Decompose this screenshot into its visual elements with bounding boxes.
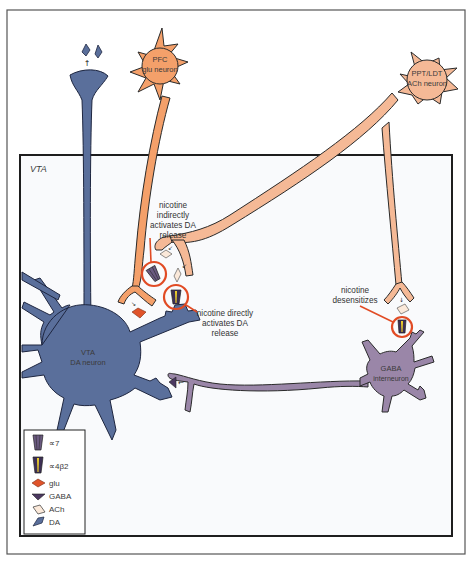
alpha7-receptor-icon	[33, 435, 43, 450]
legend-label-glu: glu	[49, 479, 60, 488]
svg-text:nicotine: nicotine	[341, 286, 370, 295]
vta-nicotine-diagram: VTA PPT/LDT ACh neuron VTA DA neuron ↑	[0, 0, 470, 563]
vta-neuron-label-line2: DA neuron	[70, 358, 105, 367]
annotation-line-indirect	[150, 238, 151, 262]
legend-label-da: DA	[49, 518, 61, 527]
gaba-neuron-label-line2: interneuron	[373, 375, 409, 382]
pfc-neuron-label-line1: PFC	[153, 55, 169, 64]
down-left-arrow-icon: ↙	[182, 262, 187, 269]
down-arrow-icon: ↓	[399, 296, 404, 303]
alpha4beta2-receptor-icon	[33, 457, 43, 473]
svg-text:release: release	[160, 231, 187, 240]
legend-label-ach: ACh	[49, 505, 65, 514]
svg-text:indirectly: indirectly	[157, 211, 190, 220]
down-left-arrow-icon: ↙	[168, 244, 173, 251]
legend: ∝7 ∝4β2 glu GABA ACh DA	[24, 430, 85, 534]
down-arrow-icon: ↘	[131, 300, 136, 307]
legend-label-alpha4beta2: ∝4β2	[49, 462, 69, 471]
up-arrow-icon: ↑	[84, 59, 91, 68]
svg-text:release: release	[212, 329, 239, 338]
vta-region-label: VTA	[30, 164, 47, 174]
left-arrow-icon: ←	[178, 379, 184, 387]
vta-neuron-label-line1: VTA	[81, 348, 95, 357]
svg-text:nicotine: nicotine	[159, 201, 188, 210]
svg-text:nicotine directly: nicotine directly	[197, 309, 254, 318]
ppt-neuron-label-line2: ACh neuron	[407, 79, 447, 88]
svg-text:activates DA: activates DA	[202, 319, 248, 328]
legend-label-gaba: GABA	[49, 492, 72, 501]
svg-text:activates DA: activates DA	[150, 221, 196, 230]
legend-label-alpha7: ∝7	[49, 439, 60, 448]
svg-text:desensitizes: desensitizes	[332, 296, 377, 305]
ppt-neuron-label-line1: PPT/LDT	[412, 69, 443, 78]
gaba-neuron-label-line1: GABA	[381, 364, 402, 373]
pfc-neuron-label-line2: glu neuron	[142, 65, 177, 74]
